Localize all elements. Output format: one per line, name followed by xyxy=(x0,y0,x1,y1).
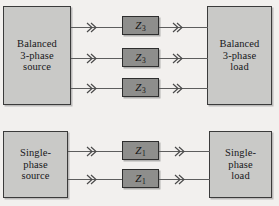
single-phase-wire-left-1 xyxy=(68,151,122,152)
impedance-label-z3-3: Z3 xyxy=(135,82,145,93)
impedance-label-z3-1: Z3 xyxy=(135,20,145,31)
impedance-box-z3-2: Z3 xyxy=(122,48,159,67)
single-phase-wire-right-2 xyxy=(159,179,210,180)
three-phase-wire-right-2 xyxy=(159,58,208,59)
three-phase-load-label: Balanced 3-phase load xyxy=(218,38,262,73)
single-phase-load-box: Single- phase load xyxy=(209,131,272,198)
impedance-box-z3-3: Z3 xyxy=(122,78,159,97)
single-phase-load-label: Single- phase load xyxy=(223,147,258,182)
three-phase-wire-right-1 xyxy=(159,27,208,28)
three-phase-wire-left-2 xyxy=(71,58,122,59)
impedance-label-z1-2: Z1 xyxy=(135,173,145,184)
single-phase-wire-left-2 xyxy=(68,179,122,180)
three-phase-wire-left-3 xyxy=(71,88,122,89)
three-phase-load-box: Balanced 3-phase load xyxy=(207,6,272,105)
circuit-diagram: Balanced 3-phase source Balanced 3-phase… xyxy=(0,0,279,206)
impedance-label-z1-1: Z1 xyxy=(135,145,145,156)
three-phase-wire-left-1 xyxy=(71,27,122,28)
three-phase-source-box: Balanced 3-phase source xyxy=(3,6,71,105)
impedance-label-z3-2: Z3 xyxy=(135,52,145,63)
three-phase-source-label: Balanced 3-phase source xyxy=(15,38,59,73)
three-phase-wire-right-3 xyxy=(159,88,208,89)
single-phase-source-label: Single- phase source xyxy=(18,147,53,182)
impedance-box-z1-1: Z1 xyxy=(122,141,159,160)
single-phase-source-box: Single- phase source xyxy=(3,131,68,198)
impedance-box-z1-2: Z1 xyxy=(122,169,159,188)
single-phase-wire-right-1 xyxy=(159,151,210,152)
impedance-box-z3-1: Z3 xyxy=(122,16,159,35)
